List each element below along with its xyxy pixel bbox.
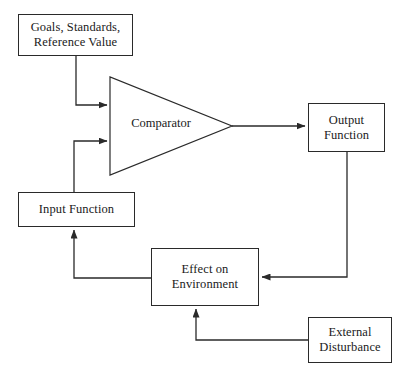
node-input-function: Input Function bbox=[18, 192, 135, 227]
edge-disturbance-to-effect bbox=[196, 309, 308, 340]
node-effect-on-environment: Effect on Environment bbox=[151, 248, 259, 306]
comparator-triangle bbox=[110, 77, 232, 175]
node-input-function-label: Input Function bbox=[36, 202, 117, 217]
node-goals-standards-reference-value: Goals, Standards, Reference Value bbox=[18, 14, 133, 56]
edge-goals-to-comparator bbox=[76, 56, 107, 105]
edge-effect-to-input bbox=[74, 230, 151, 278]
node-external-disturbance: External Disturbance bbox=[308, 317, 392, 363]
edge-output-to-effect bbox=[262, 152, 347, 277]
node-goals-label: Goals, Standards, Reference Value bbox=[28, 20, 124, 50]
node-output-function-label: Output Function bbox=[321, 113, 372, 143]
diagram-canvas: Goals, Standards, Reference Value Compar… bbox=[0, 0, 406, 383]
edge-input-to-comparator bbox=[74, 141, 107, 192]
node-effect-on-environment-label: Effect on Environment bbox=[169, 262, 241, 292]
node-external-disturbance-label: External Disturbance bbox=[316, 325, 384, 355]
node-output-function: Output Function bbox=[308, 103, 385, 152]
